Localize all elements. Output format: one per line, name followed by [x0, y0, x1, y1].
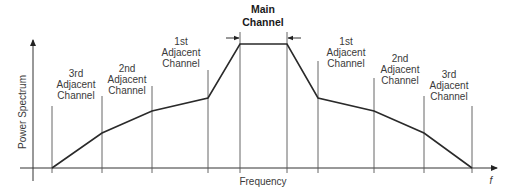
- right-2nd-adjacent-channel-label: 2nd Adjacent Channel: [381, 53, 420, 86]
- power-spectrum-curve: [52, 44, 472, 168]
- label-line: Adjacent: [108, 74, 147, 85]
- label-line: 1st: [339, 36, 353, 47]
- main-channel-label-line1: Main: [251, 3, 275, 15]
- label-line: Adjacent: [327, 47, 366, 58]
- left-1st-adjacent-channel-label: 1st Adjacent Channel: [162, 36, 201, 69]
- adjacent-channel-power-diagram: Main Channel 3rd Adjacent Channel 2nd Ad…: [0, 0, 516, 196]
- right-3rd-adjacent-channel-label: 3rd Adjacent Channel: [430, 69, 469, 102]
- channel-boundaries: [52, 32, 472, 173]
- left-3rd-adjacent-channel-label: 3rd Adjacent Channel: [57, 68, 96, 101]
- right-1st-adjacent-channel-label: 1st Adjacent Channel: [327, 36, 366, 69]
- label-line: Channel: [108, 85, 145, 96]
- label-line: Adjacent: [162, 47, 201, 58]
- y-axis-label: Power Spectrum: [17, 75, 28, 149]
- label-line: 2nd: [119, 63, 136, 74]
- label-line: Channel: [430, 91, 467, 102]
- label-line: Channel: [57, 90, 94, 101]
- x-axis-label: Frequency: [239, 176, 286, 187]
- label-line: 3rd: [69, 68, 83, 79]
- label-line: Channel: [327, 58, 364, 69]
- label-line: Channel: [162, 58, 199, 69]
- left-2nd-adjacent-channel-label: 2nd Adjacent Channel: [108, 63, 147, 96]
- label-line: Adjacent: [57, 79, 96, 90]
- label-line: 1st: [174, 36, 188, 47]
- label-line: Channel: [381, 75, 418, 86]
- main-channel-label-line2: Channel: [242, 16, 284, 28]
- label-line: 3rd: [442, 69, 456, 80]
- label-line: Adjacent: [430, 80, 469, 91]
- label-line: Adjacent: [381, 64, 420, 75]
- label-line: 2nd: [392, 53, 409, 64]
- x-axis-symbol: f: [490, 175, 494, 186]
